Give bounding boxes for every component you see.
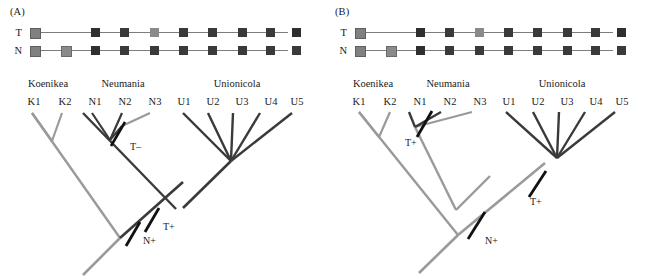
branch-u2 — [208, 113, 231, 161]
branch-n1-b — [409, 112, 415, 127]
branch-n3 — [122, 113, 150, 126]
branch-neumania-node-b — [456, 176, 490, 210]
branch-u5-b — [557, 112, 615, 158]
branch-u1-b — [506, 112, 557, 158]
branch-u3-b — [557, 112, 559, 158]
branch-u3 — [231, 113, 233, 161]
mark-label-t-minus: T– — [130, 141, 141, 152]
branch-u5 — [231, 113, 292, 161]
branch-u4 — [231, 113, 260, 161]
branch-unionicola-stem — [183, 161, 231, 208]
branch-k1 — [32, 113, 52, 141]
branch-root-stem — [83, 238, 120, 275]
branch-u4-b — [557, 112, 585, 158]
branch-neumania-backbone — [83, 113, 176, 209]
mark-label-t-plus-neumania-b: T+ — [405, 137, 417, 148]
mark-label-t-plus: T+ — [163, 221, 175, 232]
mark-label-n-plus: N+ — [143, 235, 156, 246]
figure-root: (A) T N — [0, 0, 649, 278]
branch-k2 — [52, 113, 62, 141]
panel-b: (B) T N Koenikea — [325, 0, 649, 278]
branch-k1-b — [359, 112, 379, 137]
panel-a: (A) T N — [0, 0, 324, 278]
mark-t-plus — [145, 208, 159, 232]
branch-neumania-backbone-b — [415, 127, 456, 210]
mark-label-n-plus-b: N+ — [485, 235, 498, 246]
branch-u2-b — [533, 112, 557, 158]
branch-u1 — [183, 113, 231, 161]
branch-root-stem-b — [419, 235, 458, 273]
cladogram-a — [0, 0, 324, 278]
mark-label-t-plus-unionicola-b: T+ — [530, 196, 542, 207]
branch-k2-b — [379, 112, 390, 137]
